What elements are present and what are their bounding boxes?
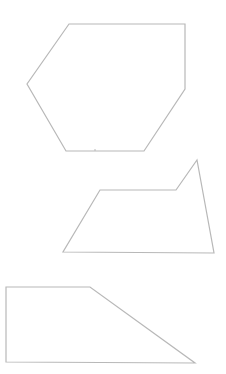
shapes-diagram	[0, 0, 226, 374]
trapezoid-shape	[6, 287, 195, 363]
pentagon-shape	[63, 160, 214, 253]
hexagon-shape	[27, 24, 185, 151]
